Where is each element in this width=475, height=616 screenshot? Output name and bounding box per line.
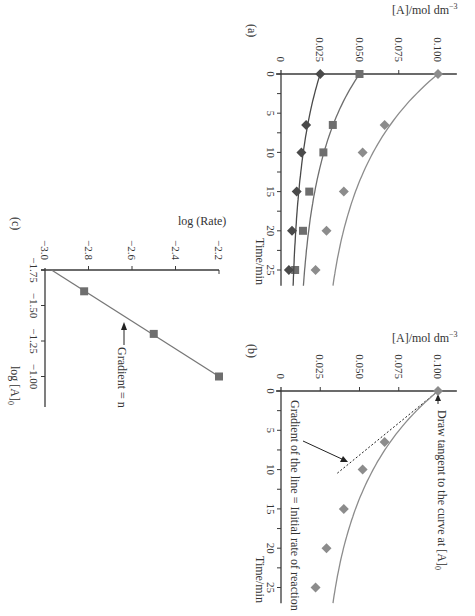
panel-b-conc-axis-label: [A]/mol dm−3: [392, 330, 458, 345]
data-point: [292, 187, 302, 197]
panel-a-chart: 00.0250.0500.0750.1000510152025 (a) [A]/…: [245, 2, 458, 286]
gradient-n-arrow-head: [121, 322, 127, 330]
gradient-n-annotation: Gradient = n: [115, 347, 129, 408]
data-point: [80, 287, 88, 295]
panel-c-log-conc-axis-label: log [A]0: [6, 366, 22, 405]
log-rate-tick-label: −2.4: [170, 240, 182, 260]
data-point: [299, 227, 307, 235]
log-rate-tick-label: −2.8: [83, 240, 95, 260]
conc-tick-label: 0.100: [432, 37, 444, 62]
conc-tick-label: 0.050: [354, 354, 366, 379]
tangent-annotation: Draw tangent to the curve at [A]0: [433, 410, 449, 570]
data-point: [329, 121, 337, 129]
conc-tick-label: 0: [275, 57, 287, 63]
time-tick-label: 5: [265, 428, 277, 434]
data-point: [319, 148, 327, 156]
conc-tick-label: 0.050: [354, 37, 366, 62]
conc-tick-label: 0.025: [314, 37, 326, 62]
data-point: [339, 187, 349, 197]
time-tick-label: 0: [265, 71, 277, 77]
conc-tick-label: 0.100: [432, 354, 444, 379]
panel-c-series: [52, 270, 223, 381]
data-point: [356, 70, 364, 78]
panel-b-series: [303, 386, 443, 603]
panel-a-series: [284, 69, 443, 286]
time-tick-label: 20: [265, 543, 277, 555]
decay-curve: [333, 74, 438, 286]
log-rate-tick-label: −2.2: [213, 240, 225, 260]
data-point: [301, 120, 311, 130]
data-point: [358, 465, 368, 475]
data-point: [322, 543, 332, 553]
log-conc-tick-label: −1.25: [28, 328, 40, 354]
log-rate-tick-label: −2.6: [126, 240, 138, 260]
data-point: [315, 69, 325, 79]
panel-c-chart: −3.0−2.8−2.6−2.4−2.2−1.75−1.50−1.25−1.00…: [6, 214, 226, 408]
tangent-line: [336, 391, 438, 474]
time-tick-label: 15: [265, 186, 277, 198]
time-tick-label: 0: [265, 388, 277, 394]
log-conc-tick-label: −1.00: [28, 364, 40, 390]
panel-a-conc-axis-label: [A]/mol dm−3: [392, 2, 458, 17]
panel-c-label: (c): [9, 217, 23, 230]
time-tick-label: 20: [265, 225, 277, 237]
gradient-annotation: Gradient of the line = Initial rate of r…: [288, 400, 302, 611]
decay-curve: [333, 391, 438, 603]
conc-tick-label: 0.075: [393, 37, 405, 62]
log-conc-tick-label: −1.75: [28, 257, 40, 283]
fit-line: [52, 270, 219, 377]
panel-a-label: (a): [245, 24, 259, 37]
data-point: [311, 265, 321, 275]
figure-stage: 00.0250.0500.0750.1000510152025 (a) [A]/…: [0, 0, 475, 616]
time-tick-label: 15: [265, 503, 277, 515]
data-point: [305, 188, 313, 196]
conc-tick-label: 0.025: [314, 354, 326, 379]
data-point: [296, 147, 306, 157]
data-point: [215, 373, 223, 381]
time-tick-label: 5: [265, 110, 277, 116]
data-point: [358, 147, 368, 157]
time-tick-label: 10: [265, 464, 277, 476]
time-tick-label: 10: [265, 147, 277, 159]
panel-b-label: (b): [245, 344, 259, 358]
conc-tick-label: 0: [275, 374, 287, 380]
conc-tick-label: 0.075: [393, 354, 405, 379]
log-conc-tick-label: −1.50: [28, 293, 40, 319]
data-point: [150, 330, 158, 338]
panel-c-log-rate-axis-label: log (Rate): [178, 214, 226, 228]
panel-b-time-axis-label: Time/min: [253, 556, 267, 603]
gradient-arrow: [303, 441, 344, 460]
data-point: [322, 226, 332, 236]
panel-b-chart: 00.0250.0500.0750.1000510152025 (b) [A]/…: [245, 330, 458, 611]
data-point: [339, 504, 349, 514]
kinetics-figure: 00.0250.0500.0750.1000510152025 (a) [A]/…: [0, 0, 475, 616]
panel-a-time-axis-label: Time/min: [253, 238, 267, 285]
data-point: [311, 583, 321, 593]
